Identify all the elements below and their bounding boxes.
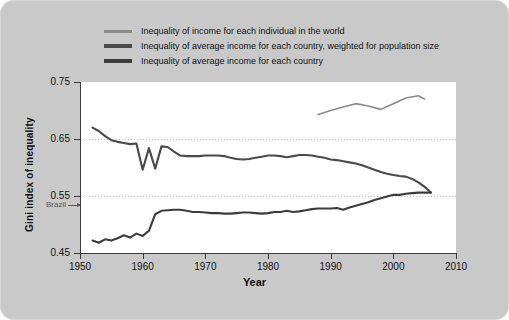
brazil-annotation-arrow xyxy=(68,205,80,206)
x-axis-tick-label: 1970 xyxy=(194,261,216,272)
y-axis-tick xyxy=(74,139,80,140)
legend-swatch-country-unweighted xyxy=(104,59,132,63)
legend-item: Inequality of average income for each co… xyxy=(104,54,444,68)
x-axis-tick xyxy=(80,253,81,259)
x-axis-tick xyxy=(268,253,269,259)
legend-item-label: Inequality of average income for each co… xyxy=(141,56,323,66)
y-axis-tick-label: 0.65 xyxy=(51,133,70,144)
series-line xyxy=(93,193,431,243)
y-axis-tick-label: 0.75 xyxy=(51,76,70,87)
y-axis-tick xyxy=(74,196,80,197)
x-axis-tick-label: 1950 xyxy=(69,261,91,272)
x-axis-tick-label: 2000 xyxy=(382,261,404,272)
series-lines xyxy=(80,82,456,253)
y-axis-title: Gini index of inequality xyxy=(24,110,40,240)
figure-container: Inequality of income for each individual… xyxy=(0,0,509,320)
x-axis-tick-label: 2010 xyxy=(445,261,467,272)
x-axis-title: Year xyxy=(0,276,509,288)
legend-item-label: Inequality of income for each individual… xyxy=(141,26,345,36)
series-line xyxy=(318,96,425,115)
series-line xyxy=(93,128,431,193)
y-axis-tick-label: 0.45 xyxy=(51,247,70,258)
x-axis-tick-label: 1990 xyxy=(320,261,342,272)
x-axis-tick xyxy=(393,253,394,259)
y-axis-line xyxy=(80,82,81,253)
x-axis-tick-label: 1960 xyxy=(132,261,154,272)
x-axis-tick xyxy=(143,253,144,259)
chart-legend: Inequality of income for each individual… xyxy=(104,24,444,69)
legend-swatch-world-individual xyxy=(104,30,132,33)
x-axis-tick-label: 1980 xyxy=(257,261,279,272)
legend-item: Inequality of average income for each co… xyxy=(104,39,444,53)
legend-item: Inequality of income for each individual… xyxy=(104,24,444,38)
legend-item-label: Inequality of average income for each co… xyxy=(141,41,439,51)
plot-area xyxy=(80,82,456,253)
legend-swatch-country-weighted xyxy=(104,44,132,48)
x-axis-tick xyxy=(456,253,457,259)
y-axis-tick xyxy=(74,82,80,83)
brazil-annotation-label: Brazil xyxy=(46,200,66,209)
x-axis-tick xyxy=(331,253,332,259)
x-axis-tick xyxy=(205,253,206,259)
